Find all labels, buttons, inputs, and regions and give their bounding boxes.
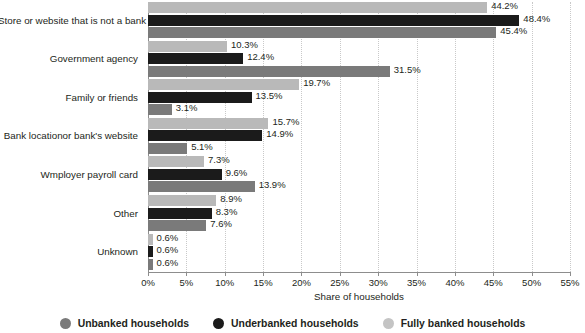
bar[interactable] — [148, 118, 268, 129]
chart-legend: Unbanked householdsUnderbanked household… — [0, 313, 585, 333]
category-label: Unknown — [0, 246, 138, 257]
gridline — [570, 2, 571, 272]
bar-value-label: 44.2% — [491, 0, 518, 11]
bar[interactable] — [148, 2, 487, 13]
category-label: Family or friends — [0, 92, 138, 103]
x-axis-title: Share of households — [148, 291, 570, 302]
bar[interactable] — [148, 143, 187, 154]
bar-row: 48.4% — [148, 15, 570, 26]
x-tick-label: 30% — [369, 277, 388, 288]
bar[interactable] — [148, 27, 496, 38]
bar-row: 7.6% — [148, 220, 570, 231]
x-tick-mark — [225, 272, 226, 276]
bar-row: 31.5% — [148, 66, 570, 77]
bar[interactable] — [148, 246, 153, 257]
bar[interactable] — [148, 181, 255, 192]
bar-value-label: 8.9% — [220, 193, 242, 204]
bar-value-label: 9.6% — [226, 167, 248, 178]
bar[interactable] — [148, 156, 204, 167]
bar[interactable] — [148, 92, 252, 103]
x-tick-label: 35% — [407, 277, 426, 288]
bar[interactable] — [148, 79, 299, 90]
x-tick-label: 55% — [560, 277, 579, 288]
bar[interactable] — [148, 259, 153, 270]
category-label: Government agency — [0, 53, 138, 64]
x-tick-mark — [148, 272, 149, 276]
x-axis-ticks: 0%5%10%15%20%25%30%35%40%45%50%55% — [148, 272, 570, 288]
bar[interactable] — [148, 234, 153, 245]
x-tick-label: 15% — [254, 277, 273, 288]
bar[interactable] — [148, 53, 243, 64]
x-tick-label: 40% — [445, 277, 464, 288]
x-tick-mark — [532, 272, 533, 276]
bar-value-label: 10.3% — [231, 39, 258, 50]
x-tick-mark — [340, 272, 341, 276]
bar-value-label: 12.4% — [247, 51, 274, 62]
x-tick-label: 50% — [522, 277, 541, 288]
legend-label: Underbanked households — [231, 318, 359, 329]
bar-row: 12.4% — [148, 53, 570, 64]
legend-label: Fully banked households — [401, 318, 526, 329]
bar[interactable] — [148, 41, 227, 52]
bar-group: 19.7%13.5%3.1% — [148, 79, 570, 117]
bar[interactable] — [148, 15, 519, 26]
bar-value-label: 19.7% — [303, 77, 330, 88]
legend-item[interactable]: Unbanked households — [60, 318, 189, 329]
bar[interactable] — [148, 130, 262, 141]
bar[interactable] — [148, 195, 216, 206]
bar-value-label: 15.7% — [272, 116, 299, 127]
bar-value-label: 0.6% — [157, 244, 179, 255]
x-tick-mark — [570, 272, 571, 276]
x-tick-label: 10% — [215, 277, 234, 288]
bar-group: 44.2%48.4%45.4% — [148, 2, 570, 40]
bar[interactable] — [148, 220, 206, 231]
legend-label: Unbanked households — [78, 318, 189, 329]
bar[interactable] — [148, 208, 212, 219]
bar[interactable] — [148, 66, 390, 77]
bar-value-label: 3.1% — [176, 102, 198, 113]
legend-item[interactable]: Underbanked households — [213, 318, 359, 329]
legend-swatch-icon — [60, 318, 71, 329]
bar-chart: Store or website that is not a bankGover… — [0, 0, 585, 333]
x-tick-label: 20% — [292, 277, 311, 288]
bar-row: 14.9% — [148, 130, 570, 141]
bar-row: 0.6% — [148, 246, 570, 257]
bar-group: 8.9%8.3%7.6% — [148, 195, 570, 233]
legend-item[interactable]: Fully banked households — [383, 318, 526, 329]
bar-groups: 44.2%48.4%45.4%10.3%12.4%31.5%19.7%13.5%… — [148, 2, 570, 272]
bar-value-label: 0.6% — [157, 257, 179, 268]
x-tick-mark — [186, 272, 187, 276]
bar-row: 8.3% — [148, 208, 570, 219]
x-tick-label: 45% — [484, 277, 503, 288]
bar[interactable] — [148, 169, 222, 180]
x-tick-label: 5% — [179, 277, 193, 288]
category-axis-labels: Store or website that is not a bankGover… — [0, 2, 144, 272]
bar-row: 13.5% — [148, 92, 570, 103]
bar-row: 19.7% — [148, 79, 570, 90]
bar-row: 5.1% — [148, 143, 570, 154]
bar-row: 0.6% — [148, 234, 570, 245]
bar-row: 9.6% — [148, 169, 570, 180]
bar-group: 10.3%12.4%31.5% — [148, 41, 570, 79]
bar-row: 13.9% — [148, 181, 570, 192]
category-label: Store or website that is not a bank — [0, 15, 138, 26]
legend-swatch-icon — [383, 318, 394, 329]
bar-value-label: 5.1% — [191, 141, 213, 152]
x-tick-label: 0% — [141, 277, 155, 288]
category-label: Wmployer payroll card — [0, 169, 138, 180]
bar[interactable] — [148, 104, 172, 115]
x-tick-mark — [378, 272, 379, 276]
bar-group: 0.6%0.6%0.6% — [148, 234, 570, 272]
x-tick-label: 25% — [330, 277, 349, 288]
bar-value-label: 31.5% — [394, 64, 421, 75]
bar-value-label: 45.4% — [500, 25, 527, 36]
plot-area: 44.2%48.4%45.4%10.3%12.4%31.5%19.7%13.5%… — [148, 2, 570, 272]
category-label: Bank locationor bank's website — [0, 130, 138, 141]
bar-value-label: 13.9% — [259, 179, 286, 190]
bar-group: 15.7%14.9%5.1% — [148, 118, 570, 156]
x-tick-mark — [455, 272, 456, 276]
bar-value-label: 48.4% — [523, 13, 550, 24]
x-tick-mark — [263, 272, 264, 276]
bar-row: 44.2% — [148, 2, 570, 13]
bar-value-label: 0.6% — [157, 232, 179, 243]
